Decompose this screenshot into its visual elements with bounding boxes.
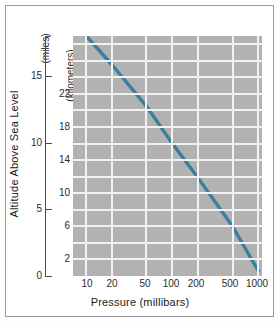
y-gridline-km-18 <box>73 126 262 128</box>
miles-tick-label-5: 5 <box>22 204 42 214</box>
x-tick-label-100: 100 <box>163 279 180 289</box>
km-tick-label-6: 6 <box>52 221 70 231</box>
x-tick-label-50: 50 <box>139 279 150 289</box>
y-gridline-km-12 <box>73 176 262 178</box>
y-axis-title: Altitude Above Sea Level <box>8 54 20 254</box>
y-gridline-km-10 <box>73 192 262 194</box>
km-tick-label-18: 18 <box>52 122 70 132</box>
x-gridline-100 <box>171 36 173 276</box>
miles-tick-10 <box>45 143 52 144</box>
y-gridline-km-24 <box>73 76 262 78</box>
y-gridline-km-28 <box>73 43 262 45</box>
chart-figure: Altitude Above Sea Level (miles) (kilome… <box>0 0 280 323</box>
miles-tick-15 <box>45 76 52 77</box>
miles-axis-spine <box>45 36 46 276</box>
x-gridline-500 <box>232 36 234 276</box>
y-gridline-km-4 <box>73 242 262 244</box>
km-tick-label-22: 22 <box>52 89 70 99</box>
x-tick-label-20: 20 <box>106 279 117 289</box>
y-gridline-km-16 <box>73 143 262 145</box>
x-gridline-200 <box>197 36 199 276</box>
x-gridline-1000 <box>257 36 259 276</box>
y-gridline-km-20 <box>73 109 262 111</box>
y-gridline-km-2 <box>73 258 262 260</box>
miles-tick-label-0: 0 <box>22 271 42 281</box>
x-axis-title: Pressure (millibars) <box>0 296 280 308</box>
x-gridline-50 <box>145 36 147 276</box>
x-tick-label-10: 10 <box>81 279 92 289</box>
miles-tick-5 <box>45 209 52 210</box>
x-tick-label-500: 500 <box>222 279 239 289</box>
km-tick-label-10: 10 <box>52 188 70 198</box>
y-gridline-km-26 <box>73 60 262 62</box>
miles-tick-label-10: 10 <box>22 138 42 148</box>
x-tick-label-200: 200 <box>188 279 205 289</box>
miles-tick-label-15: 15 <box>22 71 42 81</box>
pressure-altitude-curve <box>73 36 262 276</box>
km-tick-label-2: 2 <box>52 254 70 264</box>
y-gridline-km-8 <box>73 209 262 211</box>
x-gridline-20 <box>111 36 113 276</box>
plot-area <box>73 36 262 276</box>
km-tick-label-14: 14 <box>52 155 70 165</box>
x-tick-label-1000: 1000 <box>246 279 268 289</box>
miles-tick-0 <box>45 276 52 277</box>
miles-axis-top-cap <box>45 36 50 37</box>
y-gridline-km-14 <box>73 159 262 161</box>
y-gridline-km-6 <box>73 225 262 227</box>
y-gridline-km-22 <box>73 93 262 95</box>
x-gridline-10 <box>85 36 87 276</box>
